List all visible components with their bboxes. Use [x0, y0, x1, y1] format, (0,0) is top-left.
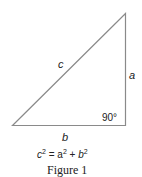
- right-angle-label: 90°: [102, 112, 117, 123]
- eq-plus: +: [67, 149, 78, 160]
- horizontal-leg-label: b: [62, 131, 68, 143]
- right-triangle: [13, 14, 126, 126]
- eq-equals: =: [46, 149, 57, 160]
- hypotenuse-label: c: [58, 58, 64, 70]
- pythagorean-equation: c2 = a2 + b2: [37, 148, 88, 160]
- eq-b-exp: 2: [84, 148, 88, 155]
- right-triangle-diagram: c a b 90° c2 = a2 + b2 Figure 1: [0, 0, 142, 177]
- vertical-leg-label: a: [129, 69, 135, 81]
- figure-caption: Figure 1: [47, 163, 87, 177]
